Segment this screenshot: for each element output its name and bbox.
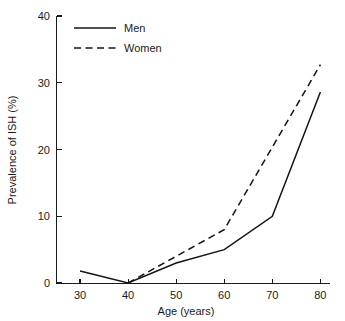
x-tick-label: 40	[122, 289, 134, 301]
x-tick-label: 50	[170, 289, 182, 301]
y-axis-title: Prevalence of ISH (%)	[6, 96, 18, 205]
legend-label-men: Men	[124, 22, 145, 34]
x-tick-label: 70	[266, 289, 278, 301]
prevalence-of-ish-line-chart: 010203040 304050607080 Age (years) Preva…	[0, 0, 345, 321]
y-tick-label: 30	[38, 77, 50, 89]
chart-figure: 010203040 304050607080 Age (years) Preva…	[0, 0, 345, 321]
y-tick-label: 40	[38, 10, 50, 22]
x-tick-label: 80	[314, 289, 326, 301]
y-tick-label: 0	[44, 277, 50, 289]
x-tick-label: 60	[218, 289, 230, 301]
x-axis-title: Age (years)	[158, 305, 215, 317]
legend-label-women: Women	[124, 42, 162, 54]
y-tick-label: 20	[38, 144, 50, 156]
x-tick-label: 30	[74, 289, 86, 301]
y-tick-label: 10	[38, 210, 50, 222]
